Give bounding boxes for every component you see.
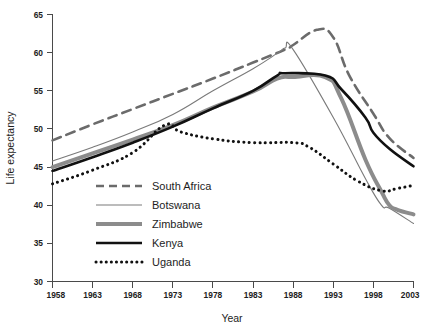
x-tick-label: 1963 bbox=[83, 290, 102, 300]
life-expectancy-line-chart: 3035404550556065 19581963196819731978198… bbox=[0, 0, 425, 332]
legend-label-kenya: Kenya bbox=[152, 237, 184, 249]
y-axis-title: Life expectancy bbox=[4, 111, 16, 185]
x-tick-label: 1988 bbox=[284, 290, 303, 300]
y-tick-label: 35 bbox=[34, 238, 44, 248]
y-tick-label: 60 bbox=[34, 48, 44, 58]
legend-label-zimbabwe: Zimbabwe bbox=[152, 218, 203, 230]
x-tick-label: 1958 bbox=[47, 290, 66, 300]
legend-label-botswana: Botswana bbox=[152, 199, 201, 211]
x-tick-label: 1998 bbox=[364, 290, 383, 300]
y-tick-label: 55 bbox=[34, 86, 44, 96]
x-tick-label: 1968 bbox=[123, 290, 142, 300]
y-tick-label: 30 bbox=[34, 277, 44, 287]
y-tick-label: 50 bbox=[34, 124, 44, 134]
x-tick-label: 1983 bbox=[244, 290, 263, 300]
x-axis-title: Year bbox=[221, 312, 243, 324]
legend-label-uganda: Uganda bbox=[152, 256, 191, 268]
legend-label-south-africa: South Africa bbox=[152, 180, 212, 192]
chart-figure: 3035404550556065 19581963196819731978198… bbox=[0, 0, 425, 332]
y-tick-label: 40 bbox=[34, 200, 44, 210]
x-tick-label: 1978 bbox=[204, 290, 223, 300]
x-tick-label: 1973 bbox=[164, 290, 183, 300]
y-tick-label: 45 bbox=[34, 162, 44, 172]
y-tick-label: 65 bbox=[34, 10, 44, 20]
x-tick-label: 1993 bbox=[324, 290, 343, 300]
x-tick-label: 2003 bbox=[401, 290, 420, 300]
